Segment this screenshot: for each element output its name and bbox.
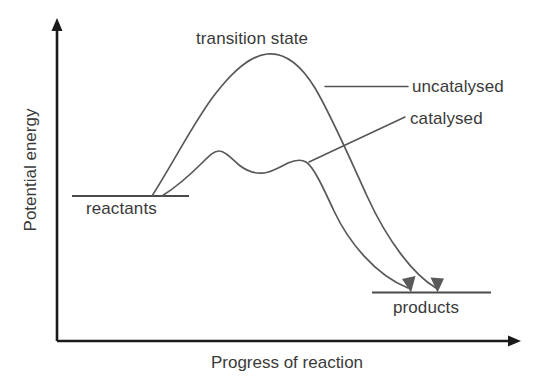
energy-profile-chart: transition state uncatalysed catalysed r…	[0, 0, 537, 382]
catalysed-pathway	[162, 151, 416, 293]
catalysed-label: catalysed	[410, 109, 483, 128]
y-axis-arrowhead	[52, 18, 63, 31]
products-label: products	[393, 298, 459, 317]
catalysed-arrowhead	[402, 276, 416, 293]
catalysed-curve	[162, 151, 408, 288]
x-axis-title: Progress of reaction	[211, 353, 363, 372]
reactants-label: reactants	[86, 199, 157, 218]
transition-state-label: transition state	[196, 29, 308, 48]
uncatalysed-label: uncatalysed	[412, 77, 504, 96]
uncatalysed-pathway	[152, 54, 444, 293]
leader-line-group	[309, 87, 408, 163]
reaction-energy-profile-diagram: transition state uncatalysed catalysed r…	[0, 0, 537, 382]
catalysed-leader-line	[309, 117, 405, 162]
y-axis-title: Potential energy	[21, 108, 40, 231]
x-axis-arrowhead	[508, 336, 521, 347]
